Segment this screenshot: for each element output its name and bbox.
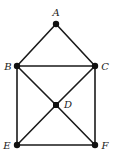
node-d bbox=[53, 102, 59, 108]
node-e bbox=[14, 142, 20, 148]
node-label-b: B bbox=[3, 61, 11, 72]
node-a bbox=[53, 21, 59, 27]
nodes-group bbox=[14, 21, 98, 148]
node-label-d: D bbox=[63, 99, 72, 110]
node-f bbox=[92, 142, 98, 148]
node-label-a: A bbox=[51, 7, 59, 18]
node-c bbox=[92, 63, 98, 69]
edge-d-f bbox=[56, 105, 95, 145]
edge-b-d bbox=[17, 66, 56, 105]
node-label-c: C bbox=[101, 61, 109, 72]
node-label-e: E bbox=[2, 140, 11, 151]
edge-c-d bbox=[56, 66, 95, 105]
node-b bbox=[14, 63, 20, 69]
labels-group: ABCDEF bbox=[2, 7, 109, 151]
edge-d-e bbox=[17, 105, 56, 145]
edge-a-c bbox=[56, 24, 95, 66]
graph-diagram: ABCDEF bbox=[0, 0, 117, 156]
edges-group bbox=[17, 24, 95, 145]
node-label-f: F bbox=[101, 140, 110, 151]
edge-a-b bbox=[17, 24, 56, 66]
